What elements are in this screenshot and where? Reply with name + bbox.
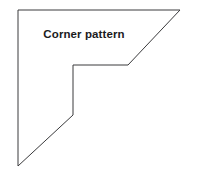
pattern-label: Corner pattern (0, 27, 168, 41)
pattern-diagram-canvas: Corner pattern (0, 0, 197, 185)
